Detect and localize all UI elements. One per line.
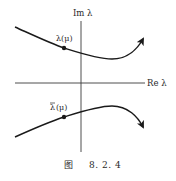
imaginary-axis-label: Im λ bbox=[73, 8, 93, 18]
lower-eigenvalue-label: λ (μ) bbox=[50, 103, 67, 112]
svg-text:λ: λ bbox=[50, 103, 55, 112]
caption-prefix: 图 bbox=[64, 160, 74, 170]
svg-text:(μ): (μ) bbox=[56, 103, 67, 112]
eigenvalue-path-figure: Im λ Re λ λ(μ) λ (μ) 图 8. 2. 4 bbox=[0, 0, 176, 181]
complex-plane-diagram: Im λ Re λ λ(μ) λ (μ) 图 8. 2. 4 bbox=[0, 0, 176, 181]
upper-eigenvalue-label: λ(μ) bbox=[56, 34, 73, 43]
lower-trajectory-curve bbox=[15, 106, 143, 137]
figure-caption: 图 8. 2. 4 bbox=[64, 160, 121, 170]
real-axis-label: Re λ bbox=[147, 78, 167, 88]
upper-trajectory-curve bbox=[15, 27, 143, 59]
lower-eigenvalue-point bbox=[62, 115, 66, 119]
caption-number: 8. 2. 4 bbox=[89, 160, 121, 170]
upper-eigenvalue-point bbox=[62, 46, 66, 50]
